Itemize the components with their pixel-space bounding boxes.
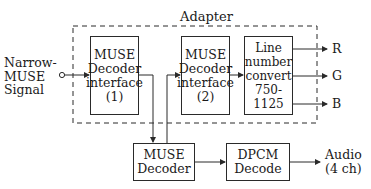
- input-terminal-icon: [59, 72, 64, 77]
- output-b-label: B: [332, 97, 341, 111]
- block-interface-1: MUSE Decoder interface (1): [90, 36, 139, 115]
- block-interface-2: MUSE Decoder interface (2): [181, 36, 230, 115]
- output-r-label: R: [332, 42, 341, 56]
- input-label: Narrow- MUSE Signal: [4, 56, 57, 97]
- block-line-number-convert: Line number convert 750-1125: [244, 36, 293, 115]
- block-dpcm-decode: DPCM Decode: [226, 143, 290, 181]
- adapter-label: Adapter: [180, 10, 233, 24]
- block-muse-decoder: MUSE Decoder: [133, 143, 195, 181]
- output-audio-label: Audio (4 ch): [325, 148, 362, 176]
- output-g-label: G: [332, 69, 342, 83]
